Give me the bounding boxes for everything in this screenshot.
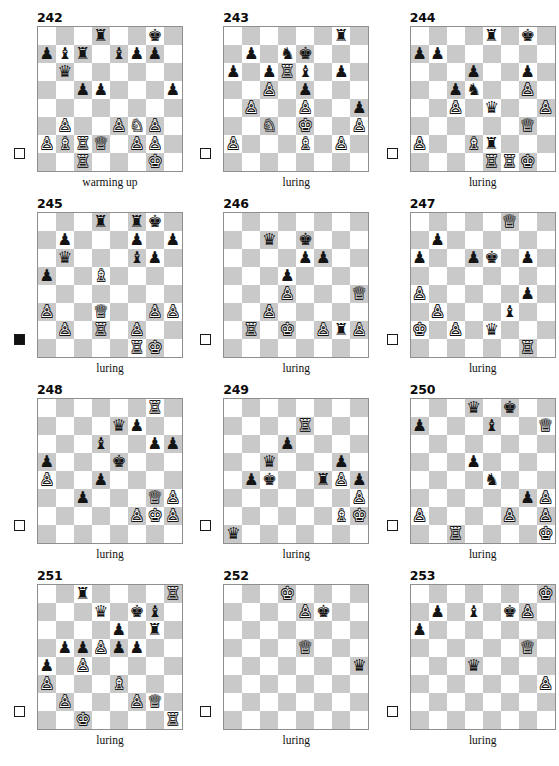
square-c6[interactable] xyxy=(260,435,278,453)
square-b8[interactable] xyxy=(242,585,260,603)
square-a8[interactable] xyxy=(224,585,242,603)
square-f3[interactable] xyxy=(314,675,332,693)
square-d3[interactable] xyxy=(465,117,483,135)
square-b3[interactable] xyxy=(56,303,74,321)
square-g8[interactable] xyxy=(519,399,537,417)
square-h1[interactable] xyxy=(537,711,555,729)
square-a2[interactable] xyxy=(224,507,242,525)
square-b5[interactable] xyxy=(56,267,74,285)
square-g5[interactable] xyxy=(146,81,164,99)
square-c8[interactable] xyxy=(447,213,465,231)
square-a5[interactable] xyxy=(224,81,242,99)
square-d8[interactable] xyxy=(278,213,296,231)
square-h8[interactable] xyxy=(350,27,368,45)
square-g4[interactable] xyxy=(146,99,164,117)
square-a8[interactable] xyxy=(411,27,429,45)
square-f4[interactable] xyxy=(128,99,146,117)
square-h6[interactable] xyxy=(350,435,368,453)
square-c4[interactable] xyxy=(260,657,278,675)
square-d7[interactable] xyxy=(92,417,110,435)
piece-black-p-icon[interactable]: ♟ xyxy=(519,249,537,267)
square-c5[interactable]: ♟ xyxy=(74,81,92,99)
square-e2[interactable] xyxy=(296,507,314,525)
square-g8[interactable] xyxy=(519,585,537,603)
square-e6[interactable]: ♟ xyxy=(110,621,128,639)
square-f1[interactable] xyxy=(501,525,519,543)
square-f5[interactable] xyxy=(501,81,519,99)
piece-black-p-icon[interactable]: ♟ xyxy=(128,45,146,63)
square-h7[interactable] xyxy=(350,417,368,435)
square-d6[interactable] xyxy=(278,249,296,267)
square-d2[interactable]: ♖ xyxy=(92,321,110,339)
square-c3[interactable] xyxy=(74,303,92,321)
square-g5[interactable]: ♟ xyxy=(332,453,350,471)
square-b8[interactable] xyxy=(242,213,260,231)
square-g6[interactable] xyxy=(332,435,350,453)
square-b4[interactable] xyxy=(56,99,74,117)
square-g5[interactable] xyxy=(332,639,350,657)
piece-white-k-icon[interactable]: ♔ xyxy=(278,585,296,603)
square-a3[interactable] xyxy=(411,675,429,693)
square-a1[interactable] xyxy=(411,153,429,171)
square-f8[interactable]: ♕ xyxy=(501,213,519,231)
square-g6[interactable] xyxy=(519,621,537,639)
piece-black-q-icon[interactable]: ♛ xyxy=(483,321,501,339)
square-c3[interactable]: ♘ xyxy=(260,117,278,135)
square-h1[interactable]: ♖ xyxy=(164,711,182,729)
square-b8[interactable] xyxy=(429,399,447,417)
square-h7[interactable] xyxy=(537,45,555,63)
square-d3[interactable] xyxy=(278,303,296,321)
square-d5[interactable]: ♞ xyxy=(465,81,483,99)
square-a5[interactable] xyxy=(224,267,242,285)
square-b8[interactable] xyxy=(242,399,260,417)
square-a6[interactable] xyxy=(411,435,429,453)
piece-white-b-icon[interactable]: ♗ xyxy=(92,267,110,285)
square-c5[interactable] xyxy=(260,267,278,285)
square-a7[interactable]: ♟ xyxy=(411,417,429,435)
square-b7[interactable]: ♟ xyxy=(56,231,74,249)
square-a5[interactable] xyxy=(224,453,242,471)
square-g5[interactable]: ♕ xyxy=(519,639,537,657)
piece-black-p-icon[interactable]: ♟ xyxy=(519,489,537,507)
square-f1[interactable] xyxy=(314,525,332,543)
square-c2[interactable] xyxy=(260,321,278,339)
square-g1[interactable]: ♔ xyxy=(146,153,164,171)
square-g6[interactable] xyxy=(332,621,350,639)
square-d7[interactable] xyxy=(278,603,296,621)
square-h7[interactable] xyxy=(164,417,182,435)
square-a7[interactable] xyxy=(224,603,242,621)
square-f2[interactable]: ♙ xyxy=(128,321,146,339)
square-e1[interactable] xyxy=(483,711,501,729)
square-d4[interactable] xyxy=(278,471,296,489)
square-f7[interactable] xyxy=(314,45,332,63)
square-h5[interactable] xyxy=(350,267,368,285)
square-f4[interactable] xyxy=(128,657,146,675)
square-b5[interactable] xyxy=(242,267,260,285)
square-e8[interactable] xyxy=(483,399,501,417)
square-c2[interactable] xyxy=(260,693,278,711)
square-g7[interactable] xyxy=(332,603,350,621)
square-a2[interactable] xyxy=(38,321,56,339)
square-d3[interactable] xyxy=(92,675,110,693)
square-f6[interactable] xyxy=(501,621,519,639)
square-a6[interactable] xyxy=(224,249,242,267)
square-e2[interactable] xyxy=(296,693,314,711)
square-d5[interactable] xyxy=(278,81,296,99)
square-g4[interactable]: ♙ xyxy=(332,471,350,489)
square-h2[interactable] xyxy=(164,693,182,711)
square-d1[interactable] xyxy=(92,711,110,729)
square-g5[interactable] xyxy=(332,81,350,99)
square-a4[interactable] xyxy=(38,99,56,117)
piece-white-r-icon[interactable]: ♖ xyxy=(501,153,519,171)
square-b6[interactable]: ♛ xyxy=(56,63,74,81)
square-e2[interactable] xyxy=(110,693,128,711)
square-e3[interactable] xyxy=(296,675,314,693)
square-h6[interactable] xyxy=(537,621,555,639)
piece-white-p-icon[interactable]: ♙ xyxy=(38,135,56,153)
square-g8[interactable]: ♚ xyxy=(519,27,537,45)
piece-white-p-icon[interactable]: ♙ xyxy=(128,507,146,525)
square-g8[interactable] xyxy=(519,213,537,231)
piece-black-p-icon[interactable]: ♟ xyxy=(38,45,56,63)
square-c8[interactable] xyxy=(74,27,92,45)
square-c5[interactable] xyxy=(447,453,465,471)
